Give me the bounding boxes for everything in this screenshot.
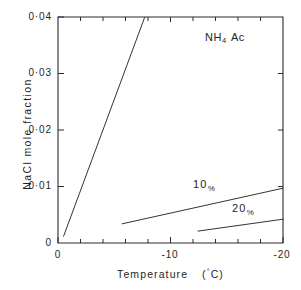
x-axis-unit-close: ) <box>219 268 224 280</box>
series-line-10pct <box>122 188 283 224</box>
y-right-ticks <box>278 74 283 187</box>
compound-label-nh4ac: NH4Ac <box>205 31 245 45</box>
compound-label-ac: Ac <box>231 31 245 43</box>
x-axis-unit: (°C) <box>202 268 224 280</box>
curve-annotation-10-value: 10 <box>193 178 208 190</box>
series-line-freezing <box>64 18 145 237</box>
percent-icon: % <box>247 208 254 217</box>
compound-label-nh: NH <box>205 31 222 43</box>
chart-figure: 0·04 0·03 0·02 0·01 0 0 -10 -20 NaCl mol… <box>0 0 301 290</box>
curve-annotation-10-percent: 10% <box>193 178 215 193</box>
x-axis-title: Temperature(°C) <box>58 268 283 280</box>
curve-annotation-20-value: 20 <box>232 202 247 214</box>
ytick-label-0-04: 0·04 <box>10 11 52 22</box>
series-line-20pct <box>198 219 283 231</box>
top-axis-ticks <box>81 17 261 22</box>
xtick-label-0: 0 <box>38 249 78 260</box>
x-axis-unit-c: C <box>211 268 220 280</box>
ytick-label-0: 0 <box>10 237 52 248</box>
percent-icon: % <box>208 184 215 193</box>
compound-label-subscript: 4 <box>222 36 227 45</box>
xtick-label-minus10: -10 <box>150 249 190 260</box>
y-axis-title: NaCl mole fraction <box>21 49 33 219</box>
y-major-ticks <box>58 17 64 187</box>
xtick-label-minus20: -20 <box>262 249 301 260</box>
curve-annotation-20-percent: 20% <box>232 202 254 217</box>
x-major-ticks <box>58 237 283 243</box>
x-axis-title-text: Temperature <box>117 268 188 280</box>
